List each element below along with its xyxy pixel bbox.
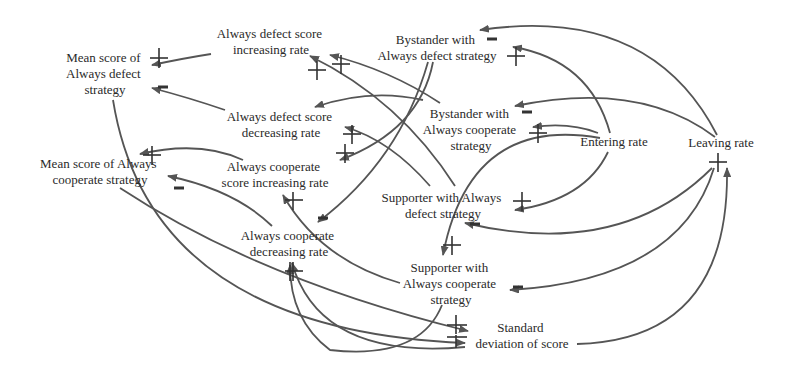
node-bystander-always-cooperate: Bystander with Always cooperate strategy (423, 106, 520, 153)
node-standard-deviation-of-score: Standard deviation of score (475, 320, 568, 351)
edge-by-ac-to-ad-dec (315, 95, 423, 107)
plus-sign (507, 47, 525, 66)
node-always-defect-score-increasing-rate: Always defect score increasing rate (217, 26, 326, 57)
node-mean-score-always-cooperate: Mean score of Always cooperate strategy (40, 156, 160, 187)
edge-entering-to-by-ac (533, 125, 598, 133)
causal-loop-diagram: Mean score of Always defect strategy Alw… (0, 0, 790, 366)
node-supporter-always-defect: Supporter with Always defect strategy (381, 190, 504, 221)
plus-sign (285, 192, 303, 210)
plus-sign (332, 55, 350, 74)
node-always-cooperate-decreasing-rate: Always cooperate decreasing rate (241, 228, 338, 259)
node-supporter-always-cooperate: Supporter with Always cooperate strategy (403, 260, 500, 307)
edge-by-ad-to-ac-inc (340, 62, 433, 160)
node-always-defect-score-decreasing-rate: Always defect score decreasing rate (227, 109, 336, 140)
node-leaving-rate: Leaving rate (688, 135, 754, 150)
node-mean-score-always-defect: Mean score of Always defect strategy (66, 50, 144, 97)
edge-leaving-to-by-ad (480, 26, 717, 135)
edge-stddev-to-leaving (577, 168, 727, 344)
edge-entering-to-by-ad (513, 47, 610, 133)
edge-ad-dec-to-mean-ad (152, 88, 225, 110)
edge-ad-inc-to-mean-ad (152, 54, 211, 65)
plus-sign (529, 124, 547, 143)
nodes: Mean score of Always defect strategy Alw… (40, 26, 754, 351)
node-entering-rate: Entering rate (580, 134, 648, 149)
edge-leaving-to-sup-ac (510, 168, 714, 290)
edges (113, 26, 727, 352)
plus-sign (336, 144, 354, 163)
node-bystander-always-defect: Bystander with Always defect strategy (377, 32, 497, 63)
plus-sign (447, 315, 467, 334)
edge-leaving-to-by-ac (515, 98, 715, 137)
node-always-cooperate-score-increasing-rate: Always cooperate score increasing rate (222, 159, 329, 190)
